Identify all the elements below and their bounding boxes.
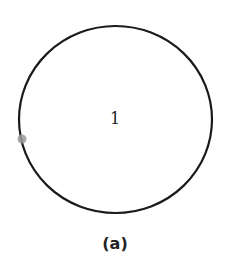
point-marker (18, 135, 27, 144)
figure-caption: (a) (85, 232, 145, 256)
diagram-figure: 1 (a) (0, 0, 231, 275)
region-label: 1 (105, 109, 125, 129)
